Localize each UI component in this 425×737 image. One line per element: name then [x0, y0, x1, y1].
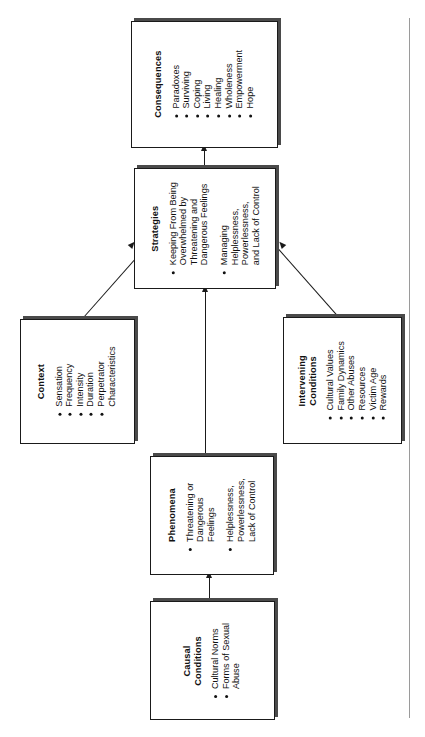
connector-causal-to-phenomena: [209, 577, 210, 601]
node-intervening-conditions-bullets: Cultural Values Family Dynamics Other Ab…: [325, 341, 389, 420]
node-context[interactable]: Context Sensation Frequency Intensity Du…: [20, 319, 135, 444]
list-item: Surviving: [182, 50, 193, 119]
list-item: Paradoxes: [171, 50, 182, 119]
node-strategies-inner: Strategies Keeping From Being Overwhelme…: [135, 169, 275, 288]
node-phenomena[interactable]: Phenomena Threatening or Dangerous Feeli…: [150, 456, 274, 575]
node-causal-conditions[interactable]: Causal Conditions Cultural Norms Forms o…: [150, 601, 275, 720]
node-context-title: Context: [37, 364, 48, 399]
node-causal-conditions-inner: Causal Conditions Cultural Norms Forms o…: [151, 602, 274, 719]
node-phenomena-title: Phenomena: [167, 489, 178, 543]
list-item: Other Abuses: [346, 341, 357, 420]
connector-intervening-to-strategies: [267, 236, 341, 319]
list-item: Family Dynamics: [335, 341, 346, 420]
list-item: Helplessness, Powerlessness, Lack of Con…: [225, 479, 257, 553]
node-causal-conditions-bullets: Cultural Norms Forms of Sexual Abuse: [211, 622, 243, 698]
node-strategies-content: Strategies Keeping From Being Overwhelme…: [149, 182, 260, 275]
node-phenomena-inner: Phenomena Threatening or Dangerous Feeli…: [151, 457, 273, 574]
node-context-inner: Context Sensation Frequency Intensity Du…: [21, 320, 134, 443]
node-intervening-conditions-content: Intervening Conditions Cultural Values F…: [297, 341, 389, 420]
node-strategies[interactable]: Strategies Keeping From Being Overwhelme…: [134, 168, 276, 289]
list-item: Healing: [213, 50, 224, 119]
node-consequences-title: Consequences: [153, 51, 164, 118]
list-item: Perpetrator Characteristics: [97, 346, 118, 416]
node-intervening-conditions-title: Intervening Conditions: [297, 355, 318, 406]
node-context-content: Context Sensation Frequency Intensity Du…: [37, 346, 118, 416]
list-item: Empowerment: [234, 50, 245, 119]
node-consequences-bullets: Paradoxes Surviving Coping Living Healin…: [171, 50, 256, 119]
page-edge-line: [409, 18, 410, 718]
list-item: Cultural Values: [325, 341, 336, 420]
node-intervening-conditions-inner: Intervening Conditions Cultural Values F…: [284, 318, 401, 443]
node-consequences[interactable]: Consequences Paradoxes Surviving Coping …: [131, 21, 278, 148]
list-item: Keeping From Being Overwhelmed by Threat…: [167, 182, 209, 275]
node-consequences-inner: Consequences Paradoxes Surviving Coping …: [132, 22, 277, 147]
diagram-canvas: Consequences Paradoxes Surviving Coping …: [0, 0, 425, 737]
list-item: Wholeness: [224, 50, 235, 119]
list-item: Rewards: [378, 341, 389, 420]
list-item: Threatening or Dangerous Feelings: [185, 479, 217, 553]
list-item: Intensity: [76, 346, 87, 416]
list-item: Victim Age: [367, 341, 378, 420]
list-item: Hope: [245, 50, 256, 119]
connector-strategies-to-consequences: [204, 150, 205, 168]
list-item: Duration: [86, 346, 97, 416]
list-item: Coping: [192, 50, 203, 119]
list-item: Sensation: [55, 346, 66, 416]
node-phenomena-bullets: Threatening or Dangerous Feelings Helple…: [185, 479, 258, 553]
node-strategies-bullets: Keeping From Being Overwhelmed by Threat…: [167, 182, 261, 275]
connector-phenomena-to-strategies: [205, 291, 206, 456]
node-consequences-content: Consequences Paradoxes Surviving Coping …: [153, 50, 255, 119]
node-causal-conditions-title: Causal Conditions: [183, 636, 204, 686]
node-strategies-title: Strategies: [149, 206, 160, 252]
node-phenomena-content: Phenomena Threatening or Dangerous Feeli…: [167, 479, 257, 553]
node-causal-conditions-content: Causal Conditions Cultural Norms Forms o…: [183, 622, 243, 698]
list-item: Resources: [357, 341, 368, 420]
node-context-bullets: Sensation Frequency Intensity Duration P…: [55, 346, 119, 416]
list-item: Cultural Norms: [211, 622, 222, 698]
node-intervening-conditions[interactable]: Intervening Conditions Cultural Values F…: [283, 317, 402, 444]
list-item: Forms of Sexual Abuse: [221, 622, 242, 698]
list-item: Managing Helplessness, Powerlessness, an…: [218, 182, 260, 275]
list-item: Frequency: [65, 346, 76, 416]
list-item: Living: [203, 50, 214, 119]
